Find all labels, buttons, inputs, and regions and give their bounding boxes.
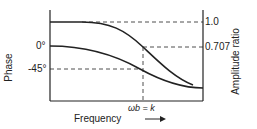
amplitude-curve bbox=[50, 22, 193, 85]
arrowhead-icon bbox=[160, 116, 166, 122]
tick-minus45deg: -45° bbox=[28, 63, 46, 74]
tick-1-0: 1.0 bbox=[205, 16, 219, 27]
phase-curve bbox=[50, 46, 203, 88]
amplitude-axis-label: Amplitude ratio bbox=[230, 28, 241, 95]
tick-0deg: 0° bbox=[36, 40, 46, 51]
phase-axis-label: Phase bbox=[3, 53, 14, 81]
corner-frequency-label: ωb = k bbox=[128, 103, 155, 113]
x-axis-label: Frequency bbox=[74, 113, 121, 124]
tick-0707: 0.707 bbox=[205, 41, 230, 52]
